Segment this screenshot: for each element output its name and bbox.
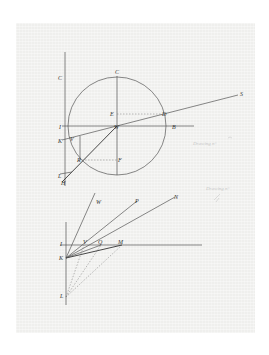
label-I: I [59,241,63,247]
pencil-mark [214,194,220,202]
label-C-top: C [115,69,120,75]
geometric-drawing: C C E D S I W B K V R F L H W P N I V [0,0,269,355]
label-D: D [161,111,167,117]
label-B: B [172,124,176,130]
pencil-note-2: Drawing n° [205,186,230,191]
upper-diagram: C C E D S I W B K V R F L H [57,52,243,186]
label-F: F [117,157,122,163]
dashed-LM [66,245,122,297]
dashed-LQ [66,245,101,297]
pencil-notes: Drawing n° Drawing n° [192,137,232,202]
label-W: W [114,124,120,130]
lower-diagram: W P N I V Q M K L [58,193,202,305]
pencil-mark [228,137,232,138]
label-Q: Q [98,239,103,245]
label-M: M [117,239,124,245]
pencil-note-1: Drawing n° [192,141,217,146]
label-W: W [96,199,102,205]
ray-KN [66,197,175,258]
label-I: I [58,124,62,130]
label-H: H [60,180,66,186]
label-R: R [76,157,81,163]
line-KS [62,95,238,140]
ray-KW [66,193,95,258]
label-K: K [58,255,64,261]
label-L: L [59,293,64,299]
label-N: N [173,194,179,200]
label-V: V [83,239,88,245]
label-K: K [57,138,63,144]
line-HW [62,126,117,182]
label-S: S [240,91,243,97]
label-L: L [57,173,62,179]
label-C-axis: C [58,75,63,81]
label-P: P [134,198,139,204]
label-E: E [109,111,114,117]
